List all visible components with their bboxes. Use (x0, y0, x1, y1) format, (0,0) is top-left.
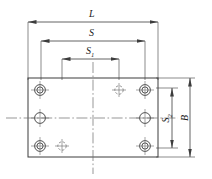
extension-lines (28, 22, 195, 157)
dimension-label-L: L (89, 9, 95, 19)
hole-ref-top (112, 83, 126, 97)
dimension-label-S2: S2 (161, 114, 174, 122)
dimension-label-B: B (180, 115, 190, 121)
drawing-vector-layer (0, 0, 212, 179)
hole-top-right (136, 81, 154, 99)
hole-mid-right (136, 109, 154, 127)
hole-top-left (31, 81, 49, 99)
hole-mid-left (31, 109, 49, 127)
hole-bottom-left (31, 137, 49, 155)
hole-bottom-right (136, 137, 154, 155)
dimension-label-S1: S1 (86, 46, 94, 59)
engineering-drawing-canvas: L S S1 S2 B (0, 0, 212, 179)
hole-ref-bottom (55, 139, 69, 153)
dimension-label-S: S (89, 28, 94, 38)
